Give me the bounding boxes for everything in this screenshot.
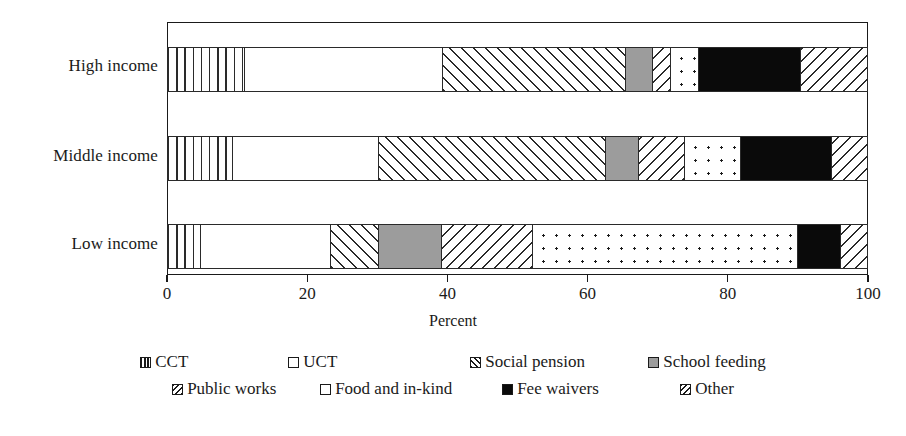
legend-item-public-works[interactable]: Public works xyxy=(172,379,320,399)
category-label-low-income: Low income xyxy=(10,234,158,254)
legend-label: Other xyxy=(695,379,734,399)
bar-segment-fee-waivers xyxy=(741,137,832,180)
legend-swatch-fee-waivers-icon xyxy=(502,384,513,395)
legend-swatch-social-pension-icon xyxy=(470,357,481,368)
legend-label: UCT xyxy=(303,352,337,372)
x-axis-title: Percent xyxy=(0,312,906,330)
bar-segment-fee-waivers xyxy=(699,48,801,91)
bar-segment-uct xyxy=(245,48,443,91)
legend-item-uct[interactable]: UCT xyxy=(288,352,470,372)
x-tick-label-80: 80 xyxy=(719,284,736,304)
stacked-bar-chart: High income Middle income Low income 020… xyxy=(0,0,906,436)
bar-segment-school-feeding xyxy=(379,225,442,268)
legend-label: Public works xyxy=(187,379,276,399)
bar-segment-cct xyxy=(168,137,233,180)
x-tick-label-40: 40 xyxy=(439,284,456,304)
x-tick-0 xyxy=(166,275,167,282)
bar-segment-other xyxy=(841,225,868,268)
legend-label: CCT xyxy=(155,352,188,372)
legend-item-social-pension[interactable]: Social pension xyxy=(470,352,648,372)
legend-label: School feeding xyxy=(663,352,765,372)
bar-segment-cct xyxy=(168,225,201,268)
category-label-high-income: High income xyxy=(10,56,158,76)
x-tick-60 xyxy=(587,275,588,282)
bar-segment-uct xyxy=(233,137,379,180)
x-tick-label-100: 100 xyxy=(855,284,881,304)
legend-swatch-food-and-in-kind-icon xyxy=(320,384,331,395)
bar-segment-food-and-in-kind xyxy=(685,137,741,180)
bar-segment-other xyxy=(801,48,868,91)
bar-segment-school-feeding xyxy=(606,137,639,180)
bar-segment-social-pension xyxy=(379,137,606,180)
bar-segment-social-pension xyxy=(443,48,625,91)
legend-item-cct[interactable]: CCT xyxy=(140,352,288,372)
legend-swatch-public-works-icon xyxy=(172,384,183,395)
bar-segment-social-pension xyxy=(331,225,379,268)
legend-item-fee-waivers[interactable]: Fee waivers xyxy=(502,379,680,399)
bar-segment-food-and-in-kind xyxy=(533,225,798,268)
x-tick-label-0: 0 xyxy=(163,284,172,304)
legend-row-2: Public worksFood and in-kindFee waiversO… xyxy=(172,379,734,399)
bar-segment-public-works xyxy=(639,137,685,180)
legend-item-food-and-in-kind[interactable]: Food and in-kind xyxy=(320,379,502,399)
bar-segment-fee-waivers xyxy=(798,225,841,268)
bar-high-income xyxy=(167,47,868,92)
bar-segment-public-works xyxy=(653,48,671,91)
bar-segment-public-works xyxy=(442,225,533,268)
bar-segment-other xyxy=(832,137,868,180)
bar-segment-uct xyxy=(201,225,331,268)
legend-label: Food and in-kind xyxy=(335,379,452,399)
legend-label: Fee waivers xyxy=(517,379,599,399)
x-tick-80 xyxy=(727,275,728,282)
x-tick-label-20: 20 xyxy=(299,284,316,304)
legend-label: Social pension xyxy=(485,352,585,372)
bar-segment-food-and-in-kind xyxy=(671,48,698,91)
legend-row-1: CCTUCTSocial pensionSchool feeding xyxy=(140,352,765,372)
x-tick-100 xyxy=(867,275,868,282)
legend-swatch-cct-icon xyxy=(140,357,151,368)
x-tick-label-60: 60 xyxy=(579,284,596,304)
x-tick-40 xyxy=(447,275,448,282)
bar-low-income xyxy=(167,224,868,269)
legend-item-school-feeding[interactable]: School feeding xyxy=(648,352,765,372)
x-tick-20 xyxy=(307,275,308,282)
legend-item-other[interactable]: Other xyxy=(680,379,734,399)
legend-swatch-school-feeding-icon xyxy=(648,357,659,368)
legend-swatch-uct-icon xyxy=(288,357,299,368)
legend: CCTUCTSocial pensionSchool feeding Publi… xyxy=(0,352,906,399)
bar-segment-school-feeding xyxy=(626,48,653,91)
category-label-middle-income: Middle income xyxy=(10,146,158,166)
bar-middle-income xyxy=(167,136,868,181)
bar-segment-cct xyxy=(168,48,245,91)
legend-swatch-other-icon xyxy=(680,384,691,395)
